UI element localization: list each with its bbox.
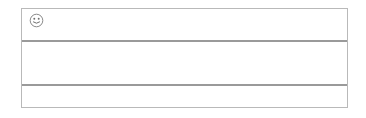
bead-wire-row-2	[22, 84, 347, 86]
bead-wire-row-1	[22, 40, 347, 42]
abacus-stage	[0, 0, 366, 118]
smiley-face-icon	[29, 13, 44, 28]
counting-rack-frame	[21, 8, 348, 108]
